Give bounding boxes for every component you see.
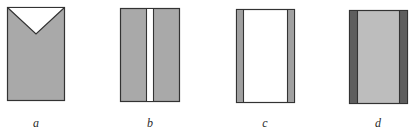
figure-b-white-stripe — [147, 9, 154, 101]
figure-c-body — [237, 10, 295, 103]
figure-c — [237, 10, 295, 103]
figure-d-right-strip — [400, 11, 407, 103]
figure-b — [121, 9, 180, 102]
figure-canvas — [0, 0, 412, 137]
figure-d-label: d — [375, 116, 381, 131]
figure-c-label: c — [262, 116, 267, 131]
figure-b-label: b — [147, 116, 153, 131]
figure-d — [350, 11, 408, 104]
figure-d-body — [350, 11, 408, 104]
figure-c-left-strip — [237, 10, 243, 102]
figure-c-right-strip — [288, 10, 294, 102]
figure-a-label: a — [33, 116, 39, 131]
figure-d-left-strip — [350, 11, 357, 103]
figure-a — [8, 8, 65, 101]
